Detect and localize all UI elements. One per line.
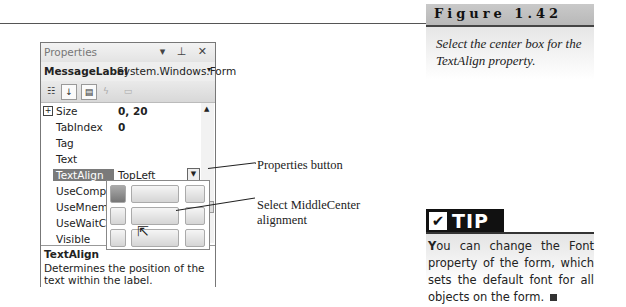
check-icon: ✔ xyxy=(429,212,447,230)
chevron-down-icon[interactable]: ▾ xyxy=(207,65,211,74)
property-name: Size xyxy=(56,105,78,117)
scroll-up-icon[interactable]: ▲ xyxy=(204,105,209,113)
property-row-text[interactable]: Text xyxy=(41,151,201,167)
align-bottom-left[interactable] xyxy=(110,229,126,247)
alignment-picker xyxy=(106,180,210,250)
align-top-right[interactable] xyxy=(185,185,205,203)
description-title: TextAlign xyxy=(44,248,99,260)
end-mark-icon xyxy=(550,294,557,301)
property-pages-icon[interactable]: ▭ xyxy=(121,84,135,98)
description-body: Determines the position of the text with… xyxy=(44,262,209,286)
mouse-cursor-icon: ⇱ xyxy=(137,223,149,239)
property-name: TextAlign xyxy=(53,169,114,181)
top-rule xyxy=(0,23,428,24)
callout-middle-center: Select MiddleCenter alignment xyxy=(257,198,377,228)
tip-text: You can change the Font property of the … xyxy=(428,238,594,306)
figure-caption: Select the center box for the TextAlign … xyxy=(436,35,596,69)
figure-caption-box: Select the center box for the TextAlign … xyxy=(426,27,594,79)
align-middle-left[interactable] xyxy=(110,207,126,225)
alphabetical-icon[interactable]: ↓ xyxy=(61,84,77,100)
property-value[interactable]: 0, 20 xyxy=(118,105,148,117)
figure-title: Figure 1.42 xyxy=(434,6,562,21)
tip-label: TIP xyxy=(452,210,489,232)
properties-icon[interactable]: ▤ xyxy=(81,84,97,100)
events-icon[interactable]: ϟ xyxy=(99,84,113,98)
figure-header: Figure 1.42 xyxy=(426,4,594,27)
properties-title: Properties xyxy=(44,46,97,58)
property-name: Tag xyxy=(56,137,74,149)
property-row-tag[interactable]: Tag xyxy=(41,135,201,151)
object-type: System.Windows.Form xyxy=(117,65,236,77)
properties-window: Properties ▾ ⊥ ✕ MessageLabel System.Win… xyxy=(40,42,216,287)
align-middle-right[interactable] xyxy=(185,207,205,225)
property-name: Visible xyxy=(56,233,90,245)
align-bottom-right[interactable] xyxy=(185,229,205,247)
property-row-size[interactable]: + Size 0, 20 xyxy=(41,103,201,119)
align-top-left[interactable] xyxy=(110,185,126,203)
expand-icon[interactable]: + xyxy=(43,106,53,116)
property-row-tabindex[interactable]: TabIndex 0 xyxy=(41,119,201,135)
property-value[interactable]: 0 xyxy=(118,121,125,133)
property-name: TabIndex xyxy=(56,121,103,133)
object-name: MessageLabel xyxy=(44,65,128,77)
property-name: Text xyxy=(56,153,77,165)
description-pane: TextAlign Determines the position of the… xyxy=(41,245,215,287)
properties-title-bar: Properties ▾ ⊥ ✕ xyxy=(41,43,215,62)
align-top-center[interactable] xyxy=(131,185,179,203)
tip-badge: ✔ TIP xyxy=(426,209,504,233)
categorized-icon[interactable]: ☷ xyxy=(44,84,58,98)
window-controls[interactable]: ▾ ⊥ ✕ xyxy=(160,45,211,58)
object-selector[interactable]: MessageLabel System.Windows.Form ▾ xyxy=(41,62,215,81)
tip-body: ou can change the Font property of the f… xyxy=(428,239,594,304)
properties-toolbar: ☷ ↓ ▤ ϟ ▭ xyxy=(41,81,215,103)
callout-properties-button: Properties button xyxy=(257,158,343,173)
